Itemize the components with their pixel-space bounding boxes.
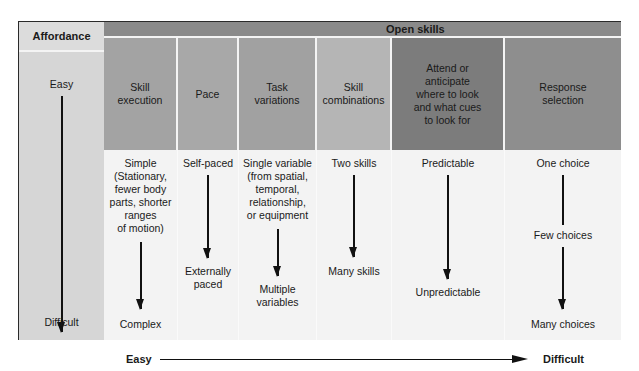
axis-right-arrow-icon — [512, 355, 528, 363]
skill-execution-difficult: Complex — [104, 318, 177, 331]
axis-line — [160, 359, 513, 360]
col-body-attend-anticipate: Predictable Unpredictable — [392, 150, 505, 340]
col-header-response-selection: Response selection — [505, 38, 621, 150]
attend-easy: Predictable — [392, 157, 504, 170]
pace-easy: Self-paced — [178, 157, 238, 170]
col-body-skill-combinations: Two skills Many skills — [317, 150, 392, 340]
pace-difficult: Externally paced — [178, 265, 238, 291]
col-header-skill-combinations: Skill combinations — [317, 38, 392, 150]
attend-difficult: Unpredictable — [392, 286, 504, 299]
task-variations-easy: Single variable (from spatial, temporal,… — [239, 157, 316, 222]
skill-combinations-easy: Two skills — [317, 157, 391, 170]
affordance-header: Affordance — [19, 22, 104, 52]
skill-execution-down-arrow-icon — [140, 242, 142, 309]
response-easy: One choice — [505, 157, 621, 170]
skill-combinations-difficult: Many skills — [317, 265, 391, 278]
col-header-task-variations: Task variations — [239, 38, 317, 150]
skill-combinations-down-arrow-icon — [353, 175, 355, 257]
task-variations-difficult: Multiple variables — [239, 283, 316, 309]
col-header-skill-execution: Skill execution — [104, 38, 178, 150]
open-skills-title: Open skills — [386, 23, 445, 35]
affordance-down-arrow-icon — [61, 96, 63, 332]
response-difficult: Many choices — [505, 318, 621, 331]
col-body-skill-execution: Simple (Stationary, fewer body parts, sh… — [104, 150, 178, 340]
task-variations-down-arrow-icon — [277, 229, 279, 276]
col-body-response-selection: One choice Few choices Many choices — [505, 150, 621, 340]
col-header-pace: Pace — [178, 38, 239, 150]
axis-difficult-label: Difficult — [543, 353, 584, 365]
affordance-column: Easy Difficult — [19, 52, 104, 340]
axis-easy-label: Easy — [126, 353, 152, 365]
affordance-easy-label: Easy — [19, 78, 104, 91]
open-skills-header: Open skills — [104, 22, 621, 38]
response-down-arrow-icon — [562, 247, 564, 309]
open-skills-table: Affordance Easy Difficult Open skills Sk… — [18, 21, 621, 340]
col-body-pace: Self-paced Externally paced — [178, 150, 239, 340]
response-upper-line — [562, 175, 564, 225]
response-mid: Few choices — [505, 229, 621, 242]
pace-down-arrow-icon — [207, 175, 209, 258]
col-header-attend-anticipate: Attend or anticipate where to look and w… — [392, 38, 505, 150]
attend-down-arrow-icon — [447, 175, 449, 279]
affordance-difficult-label: Difficult — [19, 316, 104, 329]
col-body-task-variations: Single variable (from spatial, temporal,… — [239, 150, 317, 340]
skill-execution-easy: Simple (Stationary, fewer body parts, sh… — [104, 157, 177, 235]
